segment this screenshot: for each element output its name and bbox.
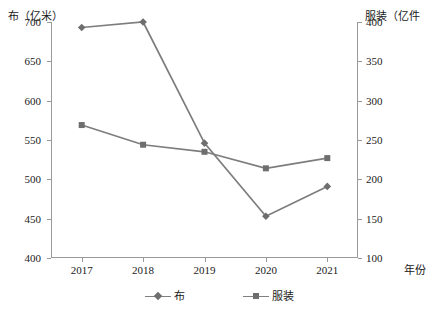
data-point-服装-2021 [324, 155, 330, 161]
series-line-布 [82, 22, 328, 216]
data-point-服装-2017 [79, 122, 85, 128]
left-tick-label: 450 [1, 213, 41, 225]
x-tick-mark [205, 258, 206, 262]
right-tick-label: 200 [366, 173, 406, 185]
x-tick-label: 2021 [297, 264, 357, 276]
legend-item-布[interactable]: 布 [145, 290, 185, 303]
right-tick-label: 400 [366, 16, 406, 28]
data-point-布-2021 [324, 183, 332, 191]
legend-item-服装[interactable]: 服装 [243, 290, 294, 303]
data-point-服装-2018 [140, 142, 146, 148]
x-tick-label: 2019 [175, 264, 235, 276]
right-tick-label: 350 [366, 55, 406, 67]
right-tick-mark [358, 22, 362, 23]
right-tick-label: 100 [366, 252, 406, 264]
x-tick-mark [82, 258, 83, 262]
left-tick-label: 700 [1, 16, 41, 28]
legend-item-label: 布 [174, 290, 185, 303]
x-tick-label: 2020 [236, 264, 296, 276]
x-tick-mark [143, 258, 144, 262]
left-tick-label: 550 [1, 134, 41, 146]
left-tick-label: 500 [1, 173, 41, 185]
data-point-布-2018 [139, 18, 147, 26]
legend-marker-icon [145, 291, 171, 301]
left-tick-mark [47, 258, 51, 259]
x-tick-mark [327, 258, 328, 262]
data-point-服装-2020 [263, 165, 269, 171]
left-tick-label: 400 [1, 252, 41, 264]
data-point-服装-2019 [202, 149, 208, 155]
left-tick-label: 600 [1, 95, 41, 107]
chart-legend: 布服装 [0, 286, 438, 306]
x-tick-label: 2017 [52, 264, 112, 276]
right-tick-mark [358, 61, 362, 62]
x-axis-title: 年份 [404, 264, 426, 277]
x-tick-mark [266, 258, 267, 262]
left-tick-label: 650 [1, 55, 41, 67]
right-tick-label: 150 [366, 213, 406, 225]
plot-area: 700650600550500450400 400350300250200150… [51, 22, 358, 258]
right-tick-mark [358, 140, 362, 141]
dual-axis-line-chart: 布（亿米） 服装（亿件 年份 700650600550500450400 400… [0, 0, 438, 309]
right-tick-label: 250 [366, 134, 406, 146]
legend-marker-icon [243, 291, 269, 301]
x-tick-label: 2018 [113, 264, 173, 276]
series-layer [51, 22, 358, 258]
right-tick-mark [358, 101, 362, 102]
right-tick-mark [358, 219, 362, 220]
data-point-布-2017 [78, 24, 86, 32]
right-tick-mark [358, 258, 362, 259]
legend-item-label: 服装 [272, 290, 294, 303]
right-tick-label: 300 [366, 95, 406, 107]
right-tick-mark [358, 179, 362, 180]
